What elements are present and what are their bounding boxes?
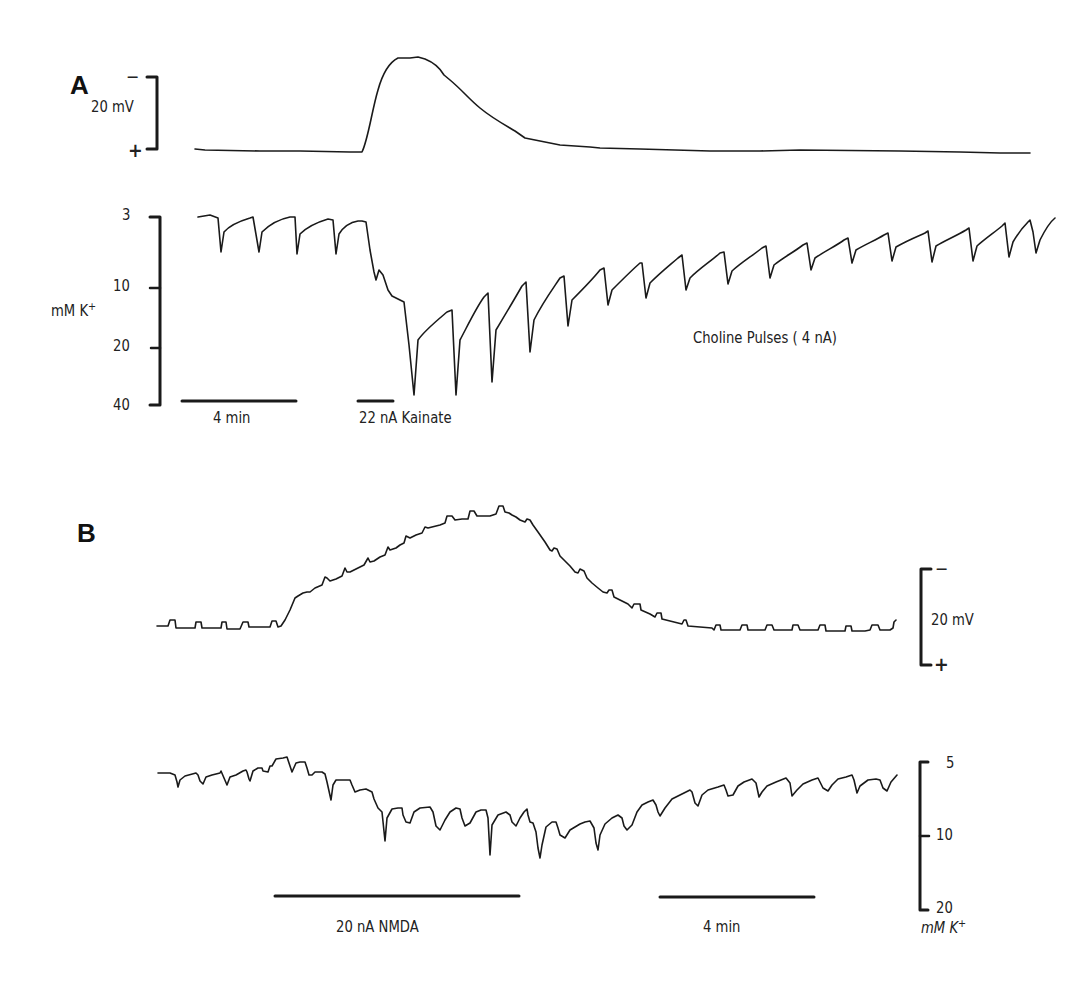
panel-a-k-trace: [198, 215, 1055, 395]
panel-b-membrane-trace: [157, 506, 896, 631]
panel-a-membrane-trace: [195, 57, 1030, 153]
panel-a-mv-scale-bracket: [147, 77, 157, 149]
figure-traces: [0, 0, 1086, 987]
panel-a-k-scale-bracket: [150, 217, 160, 405]
panel-b-k-trace: [158, 757, 897, 858]
panel-b-mv-scale-bracket: [921, 569, 931, 665]
